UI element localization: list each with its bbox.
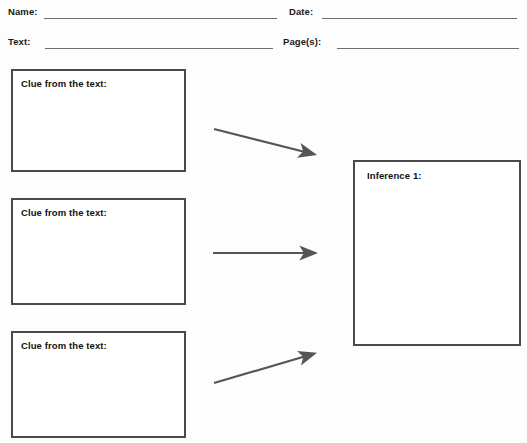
clue-box-2[interactable]: Clue from the text:	[11, 198, 186, 305]
inference-box-1[interactable]: Inference 1:	[353, 160, 521, 346]
clue-box-3[interactable]: Clue from the text:	[11, 331, 186, 438]
name-input-line[interactable]	[44, 18, 277, 19]
worksheet-page: Name: Date: Text: Page(s): Clue from the…	[0, 0, 527, 443]
date-input-line[interactable]	[322, 18, 517, 19]
date-label: Date:	[289, 6, 313, 17]
arrow-clue-1-to-inference-icon	[205, 118, 330, 168]
text-input-line[interactable]	[45, 48, 273, 49]
text-label: Text:	[8, 36, 31, 47]
arrow-clue-3-to-inference-icon	[205, 342, 330, 397]
clue-box-2-label: Clue from the text:	[21, 207, 107, 218]
name-label: Name:	[8, 6, 38, 17]
clue-box-3-label: Clue from the text:	[21, 340, 107, 351]
clue-box-1[interactable]: Clue from the text:	[11, 69, 186, 172]
pages-input-line[interactable]	[337, 48, 519, 49]
pages-label: Page(s):	[283, 36, 321, 47]
inference-box-1-label: Inference 1:	[367, 170, 422, 181]
arrow-clue-2-to-inference-icon	[205, 240, 330, 270]
clue-box-1-label: Clue from the text:	[21, 78, 107, 89]
